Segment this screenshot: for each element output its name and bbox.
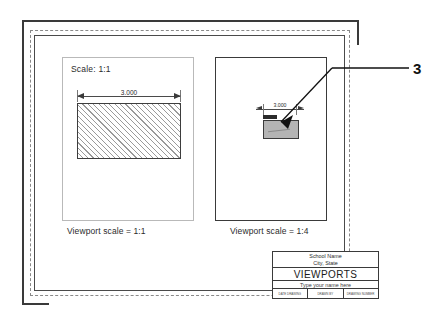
dimension-text-wrap-small: 3.000: [256, 102, 304, 108]
viewport-left-caption: Viewport scale = 1:1: [67, 226, 146, 236]
title-block-fields-row: DATE DRAWING DRAWN BY DRAWING NUMBER: [273, 289, 378, 298]
title-block-school-row: School Name City, State: [273, 252, 378, 268]
dimension-value-right: 3.000: [273, 102, 288, 108]
title-block-field-3: DRAWING NUMBER: [344, 289, 378, 298]
drawing-title-text: VIEWPORTS: [294, 269, 357, 280]
title-block-field-1: DATE DRAWING: [273, 289, 308, 298]
dimension-line: [77, 96, 181, 97]
field-3-label: DRAWING NUMBER: [347, 292, 375, 296]
city-state-text: City, State: [313, 260, 337, 266]
callout-number-3: 3: [413, 60, 421, 77]
title-block: School Name City, State VIEWPORTS Type y…: [272, 251, 379, 299]
scale-annotation-left: Scale: 1:1: [71, 64, 111, 74]
title-block-name-row[interactable]: Type your name here: [273, 281, 378, 290]
dimension-tick-bar: [263, 115, 277, 119]
scaled-rectangle-object: [263, 120, 299, 139]
viewport-left-1to1[interactable]: Scale: 1:1 3.000: [62, 57, 194, 221]
dimension-text-wrap: 3.000: [77, 89, 181, 96]
name-prompt-text: Type your name here: [300, 282, 351, 288]
viewport-right-caption: Viewport scale = 1:4: [230, 226, 309, 236]
dimension-value-left: 3.000: [118, 89, 140, 96]
dimension-left-3000: 3.000: [77, 90, 181, 102]
cad-layout-screenshot: Scale: 1:1 3.000 3.000: [0, 0, 444, 324]
dimension-right-3000: 3.000: [256, 104, 304, 114]
hatched-rectangle-object: [77, 103, 181, 159]
title-block-title-row: VIEWPORTS: [273, 268, 378, 280]
field-1-label: DATE DRAWING: [279, 292, 302, 296]
hatch-stroke: [268, 129, 290, 132]
title-block-field-2: DRAWN BY: [308, 289, 343, 298]
field-2-label: DRAWN BY: [318, 292, 334, 296]
viewport-right-1to4[interactable]: 3.000: [215, 57, 327, 221]
